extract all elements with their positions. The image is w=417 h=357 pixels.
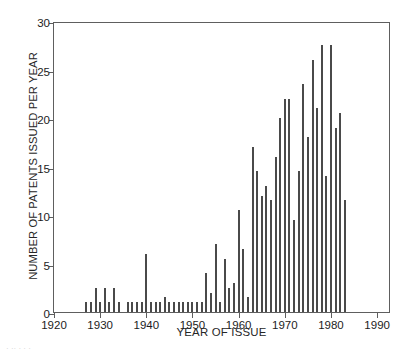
bar [284,99,286,312]
bar [344,200,346,312]
bar [159,302,161,312]
bar [145,254,147,312]
patents-per-year-chart: NUMBER OF PATENTS ISSUED PER YEAR 051015… [0,0,417,357]
bar [228,288,230,312]
bar [279,118,281,312]
bar [196,302,198,312]
bar [242,249,244,312]
bar [150,302,152,312]
bar [265,186,267,312]
bar [312,60,314,312]
bar [288,99,290,312]
bar [293,220,295,312]
y-axis-tick-label: 30 [37,17,50,29]
y-axis-tick-label: 15 [37,163,50,175]
bar [261,196,263,312]
x-axis-title: YEAR OF ISSUE [53,326,390,338]
bar [335,128,337,312]
bar [201,302,203,312]
bar [127,302,129,312]
bar [108,302,110,312]
bar [136,302,138,312]
bar [104,288,106,312]
bar [325,176,327,312]
bar [182,302,184,312]
bar [90,302,92,312]
bar [173,302,175,312]
bar [187,302,189,312]
bar [302,84,304,312]
bar [275,157,277,312]
bar [321,45,323,312]
x-axis-tick-mark [377,312,378,318]
bar [247,297,249,312]
x-axis-tick-mark [100,312,101,318]
bar [118,302,120,312]
x-axis-tick-mark [239,312,240,318]
bar [131,302,133,312]
bar [164,297,166,312]
caption-remnant: · ·· · · · [6,344,206,352]
bar [210,293,212,312]
x-axis-tick-mark [285,312,286,318]
bar [99,302,101,312]
bar [155,302,157,312]
plot-area: 0510152025301920193019401950196019701980… [53,22,390,313]
y-axis-tick-label: 25 [37,66,50,78]
bar [219,302,221,312]
bar [330,45,332,312]
y-axis-tick-label: 20 [37,114,50,126]
bar [141,302,143,312]
bar [168,302,170,312]
x-axis-tick-mark [192,312,193,318]
x-axis-tick-mark [54,312,55,318]
x-axis-tick-mark [331,312,332,318]
bar [85,302,87,312]
bar [256,171,258,312]
bar [215,244,217,312]
bar [270,200,272,312]
bar [113,288,115,312]
bar [178,302,180,312]
bar [191,302,193,312]
bar [233,283,235,312]
y-axis-tick-label: 5 [44,260,50,272]
bar [252,147,254,312]
bar [339,113,341,312]
bar [316,108,318,312]
bar [205,273,207,312]
bar [95,288,97,312]
x-axis-tick-mark [146,312,147,318]
y-axis-tick-label: 10 [37,211,50,223]
bar [238,210,240,312]
bar [307,137,309,312]
bar [298,171,300,312]
bar [224,259,226,312]
